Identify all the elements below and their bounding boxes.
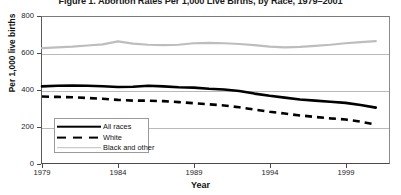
x-tick-label-1994: 1994 <box>254 168 286 177</box>
y-tick-mark-0 <box>37 164 41 165</box>
legend-swatch-black-and-other-icon <box>57 143 101 153</box>
legend-label-black-and-other: Black and other <box>101 143 154 152</box>
y-tick-label-200: 200 <box>8 122 34 131</box>
x-axis-label: Year <box>0 180 401 190</box>
x-tick-label-1999: 1999 <box>330 168 362 177</box>
x-tick-label-1984: 1984 <box>102 168 134 177</box>
y-tick-label-0: 0 <box>8 159 34 168</box>
legend-swatch-white-icon <box>57 133 101 143</box>
x-tick-label-1979: 1979 <box>26 168 58 177</box>
x-tick-label-1989: 1989 <box>178 168 210 177</box>
y-tick-label-600: 600 <box>8 48 34 57</box>
plot-area: All races White Black and other <box>41 16 390 164</box>
y-tick-label-800: 800 <box>8 11 34 20</box>
line-black-and-other <box>42 41 376 48</box>
chart-title: Figure 1. Abortion Rates Per 1,000 Live … <box>0 0 401 6</box>
legend-label-all-races: All races <box>101 122 131 131</box>
legend-item-all-races: All races <box>57 121 148 132</box>
legend-label-white: White <box>101 133 122 142</box>
legend-swatch-all-races-icon <box>57 122 101 132</box>
y-tick-label-400: 400 <box>8 85 34 94</box>
line-all-races <box>42 85 376 107</box>
figure-container: Figure 1. Abortion Rates Per 1,000 Live … <box>0 0 401 195</box>
chart-legend: All races White Black and other <box>54 118 149 153</box>
legend-item-black-and-other: Black and other <box>57 142 148 153</box>
